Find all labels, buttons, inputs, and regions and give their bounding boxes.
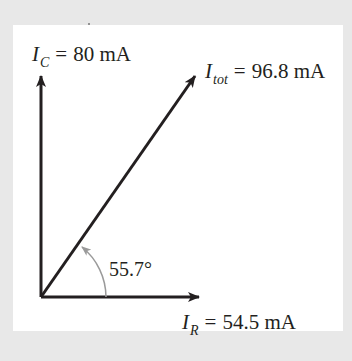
itot-symbol: I [205,59,212,83]
itot-label: Itot=96.8 mA [205,61,325,82]
itot-subscript: tot [213,72,228,87]
itot-equals: = [234,59,246,83]
ir-value: 54.5 mA [222,310,296,334]
ic-equals: = [55,42,67,66]
angle-arc [82,247,106,297]
ir-label: IR=54.5 mA [182,312,296,333]
ic-symbol: I [32,42,39,66]
ic-subscript: C [40,55,49,70]
itot-value: 96.8 mA [252,59,326,83]
ic-value: 80 mA [73,42,131,66]
angle-label: 55.7° [109,259,152,279]
ir-equals: = [205,310,217,334]
ir-subscript: R [190,323,199,338]
ic-label: IC=80 mA [32,44,131,65]
ir-symbol: I [182,310,189,334]
